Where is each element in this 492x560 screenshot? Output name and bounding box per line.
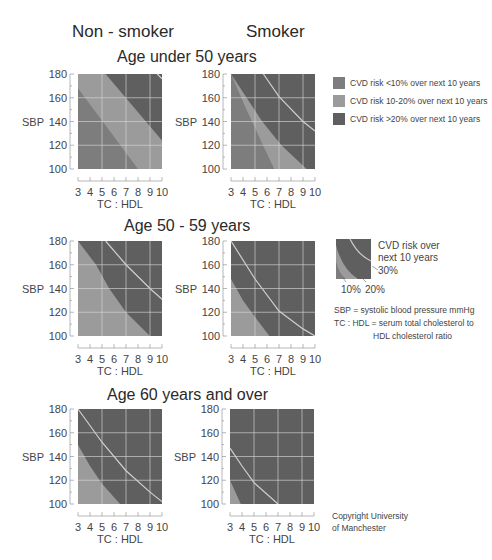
svg-text:120: 120: [202, 139, 220, 151]
svg-text:9: 9: [300, 186, 306, 198]
svg-text:TC : HDL: TC : HDL: [250, 198, 296, 210]
mini-legend-title-1: CVD risk over: [378, 240, 440, 251]
legend-item-mid: CVD risk 10-20% over next 10 years: [333, 95, 487, 107]
svg-text:6: 6: [264, 186, 270, 198]
svg-text:7: 7: [123, 186, 129, 198]
legend-swatch-high: [333, 113, 345, 125]
svg-text:160: 160: [49, 427, 67, 439]
svg-text:180: 180: [202, 68, 220, 80]
svg-text:3: 3: [227, 521, 233, 533]
chart-under50-smoker: 100120140160180SBP345678910TC : HDL: [153, 60, 313, 200]
svg-text:180: 180: [49, 68, 67, 80]
svg-text:140: 140: [202, 116, 220, 128]
svg-text:6: 6: [264, 353, 270, 365]
svg-text:160: 160: [49, 92, 67, 104]
svg-text:180: 180: [201, 403, 219, 415]
svg-text:TC : HDL: TC : HDL: [97, 365, 143, 377]
note-tc-2: HDL cholesterol ratio: [373, 331, 452, 341]
svg-text:SBP: SBP: [22, 283, 44, 295]
svg-text:TC : HDL: TC : HDL: [97, 198, 143, 210]
svg-text:140: 140: [201, 451, 219, 463]
legend-swatch-mid: [333, 95, 345, 107]
svg-text:120: 120: [49, 139, 67, 151]
svg-text:5: 5: [99, 521, 105, 533]
svg-text:SBP: SBP: [175, 116, 197, 128]
chart-60plus-smoker: 100120140160180SBP345678910TC : HDL: [152, 395, 312, 535]
svg-text:9: 9: [299, 521, 305, 533]
svg-text:4: 4: [239, 521, 245, 533]
svg-text:8: 8: [135, 186, 141, 198]
svg-text:6: 6: [111, 521, 117, 533]
svg-text:8: 8: [135, 353, 141, 365]
legend-item-high: CVD risk >20% over next 10 years: [333, 113, 480, 125]
copyright-line-2: of Manchester: [332, 523, 386, 533]
chart-under50-nonsmoker: 100120140160180SBP345678910TC : HDL: [0, 60, 160, 200]
svg-text:10: 10: [309, 186, 321, 198]
svg-text:140: 140: [202, 283, 220, 295]
legend-label-high: CVD risk >20% over next 10 years: [350, 114, 480, 124]
svg-text:8: 8: [287, 521, 293, 533]
svg-text:100: 100: [202, 163, 220, 175]
svg-text:5: 5: [252, 186, 258, 198]
svg-text:5: 5: [99, 186, 105, 198]
svg-text:SBP: SBP: [174, 451, 196, 463]
svg-text:5: 5: [251, 521, 257, 533]
svg-text:7: 7: [123, 353, 129, 365]
svg-text:180: 180: [49, 235, 67, 247]
note-tc-1: TC : HDL = serum total cholesterol to: [334, 318, 474, 328]
svg-text:120: 120: [49, 306, 67, 318]
legend-label-mid: CVD risk 10-20% over next 10 years: [350, 96, 487, 106]
legend-item-low: CVD risk <10% over next 10 years: [333, 77, 480, 89]
svg-text:3: 3: [75, 521, 81, 533]
svg-text:100: 100: [201, 498, 219, 510]
svg-text:160: 160: [201, 427, 219, 439]
legend-swatch-low: [333, 77, 345, 89]
svg-text:3: 3: [75, 353, 81, 365]
svg-text:7: 7: [275, 521, 281, 533]
svg-text:TC : HDL: TC : HDL: [250, 365, 296, 377]
svg-text:100: 100: [49, 498, 67, 510]
svg-text:100: 100: [49, 330, 67, 342]
svg-text:8: 8: [288, 353, 294, 365]
svg-text:160: 160: [202, 92, 220, 104]
svg-text:7: 7: [123, 521, 129, 533]
mini-legend-pointers: [336, 266, 396, 288]
svg-text:100: 100: [49, 163, 67, 175]
svg-text:4: 4: [240, 353, 246, 365]
svg-text:3: 3: [228, 186, 234, 198]
svg-text:140: 140: [49, 116, 67, 128]
svg-text:100: 100: [202, 330, 220, 342]
svg-text:9: 9: [300, 353, 306, 365]
chart-50-59-smoker: 100120140160180SBP345678910TC : HDL: [153, 227, 313, 367]
copyright-line-1: Copyright University: [332, 511, 408, 521]
svg-text:SBP: SBP: [22, 116, 44, 128]
column-header-smoker: Smoker: [246, 22, 305, 42]
svg-text:5: 5: [99, 353, 105, 365]
svg-text:6: 6: [263, 521, 269, 533]
svg-text:180: 180: [202, 235, 220, 247]
note-sbp: SBP = systolic blood pressure mmHg: [334, 305, 474, 315]
svg-text:120: 120: [201, 474, 219, 486]
svg-text:SBP: SBP: [175, 283, 197, 295]
chart-50-59-nonsmoker: 100120140160180SBP345678910TC : HDL: [0, 227, 160, 367]
svg-text:6: 6: [111, 186, 117, 198]
svg-text:160: 160: [202, 259, 220, 271]
svg-text:6: 6: [111, 353, 117, 365]
svg-text:SBP: SBP: [22, 451, 44, 463]
svg-text:3: 3: [228, 353, 234, 365]
svg-text:180: 180: [49, 403, 67, 415]
chart-60plus-nonsmoker: 100120140160180SBP345678910TC : HDL: [0, 395, 160, 535]
svg-text:8: 8: [135, 521, 141, 533]
svg-text:120: 120: [202, 306, 220, 318]
svg-text:7: 7: [276, 186, 282, 198]
svg-text:5: 5: [252, 353, 258, 365]
svg-text:7: 7: [276, 353, 282, 365]
svg-text:4: 4: [240, 186, 246, 198]
svg-text:10: 10: [308, 521, 320, 533]
svg-text:4: 4: [87, 521, 93, 533]
mini-legend-title-2: next 10 years: [378, 252, 438, 263]
svg-text:10: 10: [309, 353, 321, 365]
svg-text:4: 4: [87, 186, 93, 198]
svg-text:TC : HDL: TC : HDL: [249, 533, 295, 545]
svg-text:8: 8: [288, 186, 294, 198]
